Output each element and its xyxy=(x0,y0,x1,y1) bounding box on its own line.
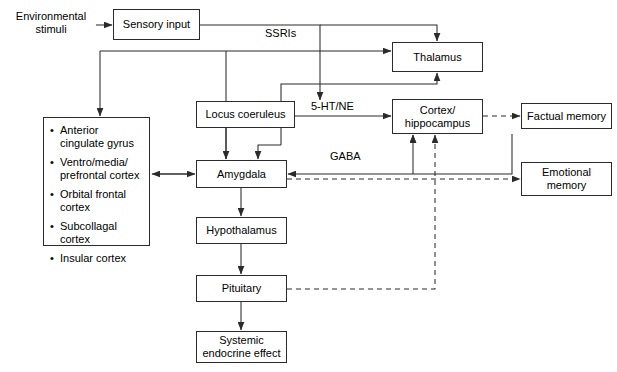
list-item: Ventro/media/ prefrontal cortex xyxy=(60,156,144,182)
list-item: Orbital frontal cortex xyxy=(60,188,144,214)
edge-sensory-to-locus xyxy=(200,25,320,100)
node-thalamus[interactable]: Thalamus xyxy=(392,42,483,72)
node-systemic-endocrine-effect[interactable]: Systemic endocrine effect xyxy=(196,331,287,363)
node-cortical-regions[interactable]: Anterior cingulate gyrus Ventro/media/ p… xyxy=(43,117,150,246)
node-emotional-memory[interactable]: Emotional memory xyxy=(521,162,612,196)
node-pituitary[interactable]: Pituitary xyxy=(196,275,287,302)
environmental-stimuli-label: Environmental stimuli xyxy=(6,10,96,36)
edge-label-ssris: SSRIs xyxy=(262,27,299,40)
edge-cortex-down-right xyxy=(413,134,512,148)
node-locus-coeruleus[interactable]: Locus coeruleus xyxy=(196,101,295,128)
node-factual-memory[interactable]: Factual memory xyxy=(521,103,612,129)
node-cortex-hippocampus[interactable]: Cortex/ hippocampus xyxy=(392,99,483,134)
edge-gaba-cortex-to-amygdala xyxy=(288,134,512,174)
edge-sensory-to-thalamus-top xyxy=(320,25,437,41)
node-hypothalamus[interactable]: Hypothalamus xyxy=(196,217,287,244)
list-item: Anterior cingulate gyrus xyxy=(60,124,144,150)
edge-label-5ht-ne: 5-HT/NE xyxy=(308,100,357,113)
cortical-regions-list: Anterior cingulate gyrus Ventro/media/ p… xyxy=(48,124,144,265)
node-sensory-input[interactable]: Sensory input xyxy=(113,9,200,40)
node-amygdala[interactable]: Amygdala xyxy=(196,160,287,188)
list-item: Subcollagal cortex xyxy=(60,220,144,246)
edge-label-gaba: GABA xyxy=(327,150,364,163)
diagram-canvas: Environmental stimuli SSRIs 5-HT/NE GABA… xyxy=(0,0,617,372)
edge-riser-to-amygdala-top xyxy=(258,145,281,159)
list-item: Insular cortex xyxy=(60,252,144,265)
